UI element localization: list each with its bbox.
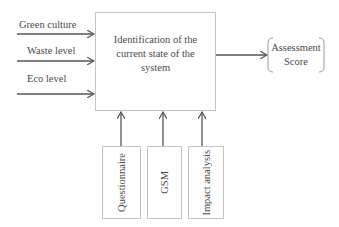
method-box-questionnaire: Questionnaire: [102, 146, 141, 219]
method-label-questionnaire: Questionnaire: [116, 153, 127, 212]
method-box-gsm: GSM: [147, 146, 182, 219]
process-label: Identification of the current state of t…: [106, 33, 206, 75]
input-label-waste-level: Waste level: [27, 45, 75, 57]
output-box: Assessment Score: [268, 37, 324, 73]
process-box: Identification of the current state of t…: [95, 12, 216, 111]
output-label-line1: Assessment: [271, 42, 321, 53]
input-label-eco-level: Eco level: [27, 73, 66, 85]
input-label-green-culture: Green culture: [19, 19, 76, 31]
output-label-line2: Score: [284, 56, 308, 67]
method-label-impact-analysis: Impact analysis: [201, 150, 212, 216]
output-label: Assessment Score: [271, 41, 321, 69]
method-label-gsm: GSM: [159, 171, 170, 194]
method-box-impact-analysis: Impact analysis: [188, 146, 224, 219]
